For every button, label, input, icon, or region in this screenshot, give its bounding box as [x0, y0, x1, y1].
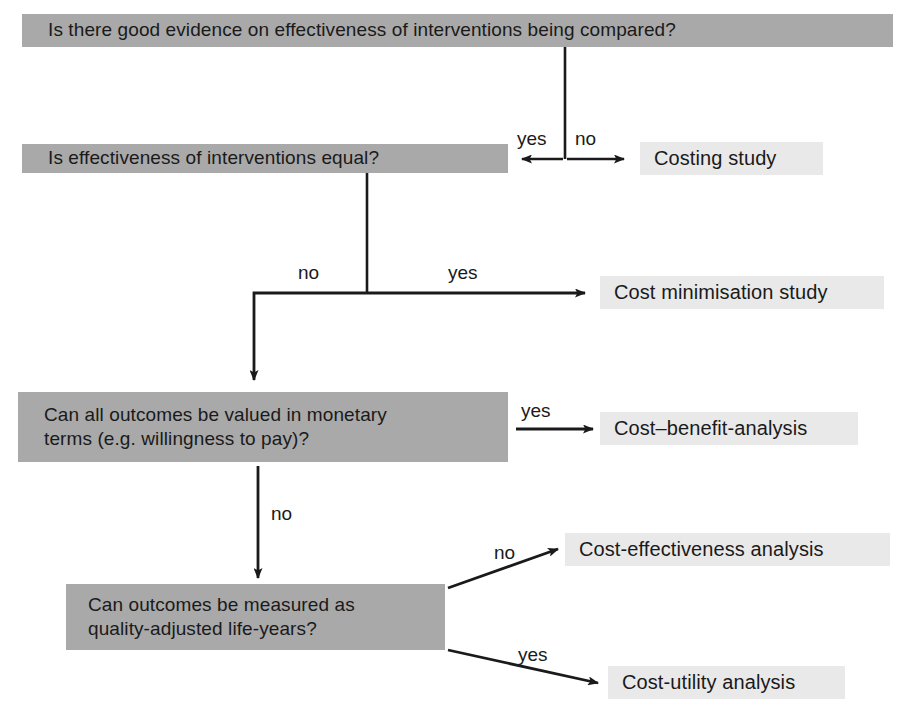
edge-label-q3-yes: yes: [521, 401, 551, 420]
node-cost-utility-analysis-label: Cost-utility analysis: [622, 670, 845, 696]
node-q3-label: Can all outcomes be valued in monetary t…: [44, 403, 508, 452]
node-cost-utility-analysis[interactable]: Cost-utility analysis: [608, 666, 845, 699]
node-q2-label: Is effectiveness of interventions equal?: [48, 146, 508, 170]
edge-label-q1-yes: yes: [517, 129, 547, 148]
node-q4-label: Can outcomes be measured as quality-adju…: [88, 593, 445, 642]
node-cost-benefit-analysis[interactable]: Cost–benefit-analysis: [600, 412, 858, 445]
node-q4[interactable]: Can outcomes be measured as quality-adju…: [66, 584, 445, 650]
edge-label-q2-no: no: [298, 263, 319, 282]
node-cost-minimisation-study[interactable]: Cost minimisation study: [600, 276, 884, 309]
node-q1-label: Is there good evidence on effectiveness …: [48, 18, 893, 42]
node-costing-study-label: Costing study: [654, 146, 823, 172]
edge-label-q2-yes: yes: [448, 263, 478, 282]
node-costing-study[interactable]: Costing study: [640, 142, 823, 175]
edge-label-q3-no: no: [271, 504, 292, 523]
flowchart-canvas: Is there good evidence on effectiveness …: [0, 0, 905, 720]
node-q2[interactable]: Is effectiveness of interventions equal?: [22, 144, 508, 173]
edge-label-q4-yes: yes: [518, 645, 548, 664]
node-cost-effectiveness-analysis-label: Cost-effectiveness analysis: [579, 537, 890, 563]
edge-q2-no: [254, 293, 367, 380]
node-cost-benefit-analysis-label: Cost–benefit-analysis: [614, 416, 858, 442]
node-q3[interactable]: Can all outcomes be valued in monetary t…: [18, 392, 508, 462]
node-cost-effectiveness-analysis[interactable]: Cost-effectiveness analysis: [565, 533, 890, 566]
node-cost-minimisation-study-label: Cost minimisation study: [614, 280, 884, 306]
node-q1[interactable]: Is there good evidence on effectiveness …: [22, 14, 893, 47]
edge-label-q1-no: no: [575, 129, 596, 148]
edge-label-q4-no: no: [494, 543, 515, 562]
